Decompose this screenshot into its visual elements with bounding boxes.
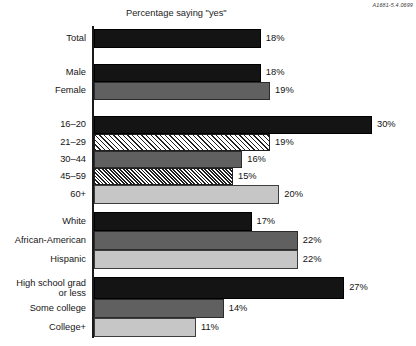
bar-value-label: 16% <box>247 154 266 164</box>
bar-value-label: 19% <box>275 137 294 147</box>
bar-value-label: 22% <box>303 235 322 245</box>
bar-value-label: 22% <box>303 254 322 264</box>
bar-value-label: 27% <box>349 282 368 292</box>
category-label: African-American <box>15 235 86 246</box>
bar <box>94 185 279 204</box>
bar-row: College+11% <box>0 318 416 337</box>
bar <box>94 250 298 269</box>
bar <box>94 29 261 48</box>
category-label: Male <box>66 67 86 78</box>
bar-row: 60+20% <box>0 185 416 204</box>
bar <box>94 64 261 82</box>
bar <box>94 231 298 250</box>
plot-area: Total18%Male18%Female19%16–2030%21–2919%… <box>0 0 416 346</box>
bar <box>94 277 344 299</box>
category-label: Some college <box>30 303 86 314</box>
bar-row: 30–4416% <box>0 151 416 168</box>
bar-row: Hispanic22% <box>0 250 416 269</box>
bar <box>94 318 196 337</box>
category-label: 16–20 <box>60 119 86 130</box>
bar-row: Some college14% <box>0 299 416 318</box>
bar <box>94 168 233 185</box>
bar-value-label: 11% <box>201 322 219 332</box>
bar-value-label: 17% <box>257 216 276 226</box>
bar-value-label: 18% <box>266 33 285 43</box>
bar <box>94 82 270 100</box>
bar-row: 45–5915% <box>0 168 416 185</box>
category-label: College+ <box>49 322 86 333</box>
category-label-line: or less <box>0 288 86 298</box>
category-label: 45–59 <box>60 171 86 182</box>
category-label: Total <box>66 33 86 44</box>
category-label: Female <box>55 85 86 96</box>
bar-value-label: 19% <box>275 85 294 95</box>
bar-row: White17% <box>0 212 416 231</box>
bar-value-label: 15% <box>238 171 257 181</box>
bar-value-label: 18% <box>266 67 285 77</box>
bar-row: Female19% <box>0 82 416 100</box>
category-label: White <box>62 216 86 227</box>
bar-row: African-American22% <box>0 231 416 250</box>
bar-value-label: 20% <box>284 189 303 199</box>
bar-row: High school grador less27% <box>0 277 416 299</box>
bar <box>94 134 270 151</box>
bar-row: 16–2030% <box>0 116 416 134</box>
bar-row: Male18% <box>0 64 416 82</box>
bar-value-label: 30% <box>377 119 396 129</box>
bar-row: Total18% <box>0 29 416 48</box>
bar <box>94 116 372 134</box>
category-label: 60+ <box>70 189 86 200</box>
bar-value-label: 14% <box>229 303 248 313</box>
category-label-line: High school grad <box>0 278 86 288</box>
bar <box>94 151 242 168</box>
category-label: High school grador less <box>0 278 86 299</box>
category-label: 21–29 <box>60 137 86 148</box>
bar <box>94 299 224 318</box>
bar-row: 21–2919% <box>0 134 416 151</box>
bar <box>94 212 252 231</box>
chart-container: A1681-5.4.0699 Percentage saying "yes" T… <box>0 0 416 346</box>
category-label: 30–44 <box>60 154 86 165</box>
category-label: Hispanic <box>50 254 86 265</box>
